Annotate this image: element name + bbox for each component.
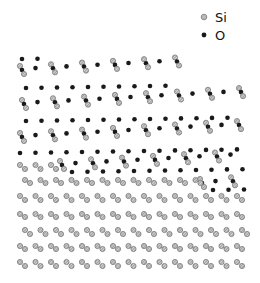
atoms-layer — [17, 55, 249, 269]
o-atom — [228, 152, 233, 157]
si-atom — [193, 227, 198, 232]
si-atom — [224, 227, 229, 232]
o-atom — [211, 188, 216, 193]
si-atom — [146, 246, 151, 251]
si-atom — [207, 128, 212, 133]
si-atom — [157, 259, 162, 264]
o-atom — [20, 57, 25, 62]
o-atom — [70, 118, 75, 123]
si-atom — [84, 263, 89, 268]
o-atom — [117, 117, 122, 122]
o-atom — [148, 117, 153, 122]
o-atom — [18, 151, 23, 156]
si-atom — [38, 197, 43, 202]
si-atom — [145, 65, 150, 70]
si-atom — [17, 211, 22, 216]
si-atom — [110, 259, 115, 264]
si-atom — [64, 193, 69, 198]
si-atom — [219, 259, 224, 264]
si-atom — [115, 246, 120, 251]
si-atom — [141, 259, 146, 264]
si-atom — [136, 180, 141, 185]
o-atom — [35, 100, 40, 105]
si-atom — [110, 193, 115, 198]
si-atom — [53, 263, 58, 268]
si-atom — [193, 246, 198, 251]
o-atom — [111, 149, 116, 154]
o-atom — [135, 157, 140, 162]
si-atom — [193, 177, 198, 182]
o-atom — [157, 126, 162, 131]
o-atom — [148, 84, 153, 89]
si-atom — [162, 227, 167, 232]
si-atom — [162, 177, 167, 182]
o-atom — [188, 148, 193, 153]
si-atom — [54, 104, 59, 109]
o-atom — [204, 148, 209, 153]
si-atom — [224, 246, 229, 251]
o-atom — [101, 169, 106, 174]
si-atom — [53, 166, 58, 171]
si-atom — [177, 197, 182, 202]
o-atom — [104, 159, 109, 164]
si-atom — [177, 214, 182, 219]
o-atom — [80, 150, 85, 155]
si-atom — [203, 243, 208, 248]
si-atom — [136, 231, 141, 236]
si-atom — [61, 166, 66, 171]
si-atom — [193, 197, 198, 202]
si-atom — [21, 71, 26, 76]
si-atom — [185, 160, 190, 165]
si-atom — [182, 231, 187, 236]
o-atom — [235, 147, 240, 152]
si-atom — [79, 193, 84, 198]
si-atom — [83, 68, 88, 73]
si-atom — [126, 193, 131, 198]
si-atom — [219, 193, 224, 198]
si-atom — [234, 259, 239, 264]
si-atom — [53, 246, 58, 251]
si-atom — [69, 177, 74, 182]
si-atom — [224, 214, 229, 219]
legend-label-o: O — [215, 28, 225, 43]
si-atom — [105, 180, 110, 185]
si-atom — [79, 259, 84, 264]
si-atom — [145, 132, 150, 137]
si-atom — [53, 197, 58, 202]
si-atom — [74, 231, 79, 236]
si-atom — [92, 165, 97, 170]
o-atom — [126, 149, 131, 154]
si-atom — [238, 127, 243, 132]
si-atom — [208, 214, 213, 219]
o-atom — [97, 96, 102, 101]
si-atom — [69, 227, 74, 232]
si-atom — [172, 243, 177, 248]
si-atom — [83, 135, 88, 140]
si-atom — [244, 231, 249, 236]
o-atom — [179, 116, 184, 121]
o-atom — [117, 84, 122, 89]
si-atom — [209, 95, 214, 100]
o-atom — [240, 167, 245, 172]
si-atom — [172, 193, 177, 198]
si-atom — [33, 259, 38, 264]
si-atom — [22, 263, 27, 268]
si-atom — [232, 183, 237, 188]
si-atom — [27, 231, 32, 236]
o-atom — [194, 116, 199, 121]
si-atom — [21, 138, 26, 143]
o-atom — [225, 167, 230, 172]
o-atom — [33, 66, 38, 71]
si-atom — [17, 259, 22, 264]
si-atom — [79, 211, 84, 216]
si-atom — [126, 211, 131, 216]
si-atom — [115, 227, 120, 232]
si-atom — [188, 259, 193, 264]
si-atom — [239, 214, 244, 219]
si-atom — [48, 162, 53, 167]
si-atom — [162, 197, 167, 202]
si-atom — [48, 259, 53, 264]
si-atom — [193, 263, 198, 268]
si-atom — [131, 197, 136, 202]
si-atom — [115, 177, 120, 182]
